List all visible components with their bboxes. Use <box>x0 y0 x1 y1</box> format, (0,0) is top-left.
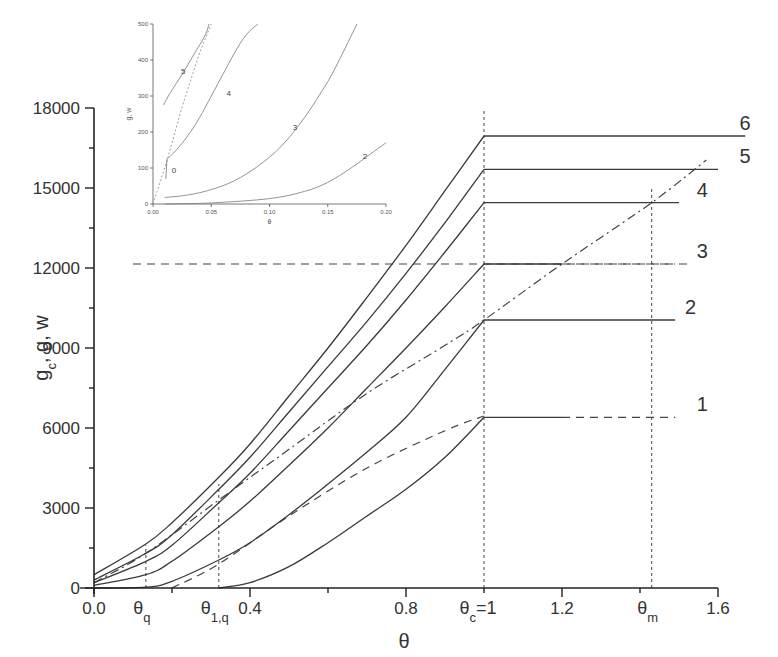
series-2-curve <box>94 320 484 588</box>
inset-x-title: θ <box>268 218 272 225</box>
x-tick-label: 1.6 <box>706 599 730 618</box>
inset-dashed-line <box>153 24 211 204</box>
inset-x-tick-label: 0.15 <box>322 209 334 215</box>
series-2-label: 2 <box>685 296 696 318</box>
y-title-g: g <box>30 370 52 381</box>
series-4-label: 4 <box>697 179 708 201</box>
y-tick-label: 6000 <box>42 419 80 438</box>
inset-y-tick-label: 400 <box>138 57 149 63</box>
y-tick-label: 3000 <box>42 499 80 518</box>
inset-plot: 01002003004005000.000.050.100.150.20θg, … <box>125 21 392 225</box>
inset-x-tick-label: 0.20 <box>380 209 392 215</box>
inset-series-2-label: 2 <box>363 152 368 161</box>
series-6-curve <box>94 136 484 575</box>
main-plot: 03000600090001200015000180000.00.40.81.2… <box>30 99 751 652</box>
x-axis-title: θ <box>398 630 409 652</box>
y-tick-label: 15000 <box>33 179 80 198</box>
x-tick-label: 1.2 <box>550 599 574 618</box>
inset-series-4-label: 4 <box>226 89 231 98</box>
inset-annotation: 0 <box>172 166 177 175</box>
inset-series-3-label: 3 <box>293 123 298 132</box>
series-3-label: 3 <box>697 240 708 262</box>
inset-y-tick-label: 200 <box>138 129 149 135</box>
series-1-curve <box>219 417 484 588</box>
inset-x-tick-label: 0.10 <box>264 209 276 215</box>
series-5-label: 5 <box>740 145 751 167</box>
inset-y-tick-label: 300 <box>138 93 149 99</box>
y-tick-label: 18000 <box>33 99 80 118</box>
x-special-label: θq <box>133 598 150 625</box>
x-special-label: θc=1 <box>459 598 496 625</box>
inset-y-tick-label: 0 <box>145 201 149 207</box>
inset-series-3-curve <box>165 24 357 198</box>
x-tick-label: 0.8 <box>394 599 418 618</box>
reference-lines <box>94 160 706 588</box>
inset-series-5-label: 5 <box>181 67 186 76</box>
vertical-markers <box>146 108 652 588</box>
series-3-curve <box>94 264 484 585</box>
dash-dot-line <box>94 160 706 583</box>
chart: 03000600090001200015000180000.00.40.81.2… <box>0 0 778 657</box>
inset-y-tick-label: 500 <box>138 21 149 27</box>
y-tick-label: 0 <box>71 579 80 598</box>
series-4-curve <box>94 203 484 583</box>
y-tick-label: 12000 <box>33 259 80 278</box>
series-1-label: 1 <box>697 393 708 415</box>
series-5-curve <box>94 169 484 580</box>
inset-y-tick-label: 100 <box>138 165 149 171</box>
inset-x-tick-label: 0.05 <box>205 209 217 215</box>
inset-x-tick-label: 0.00 <box>147 209 159 215</box>
x-special-label: θ1,q <box>201 598 229 625</box>
x-tick-label: 0.0 <box>82 599 106 618</box>
x-special-label: θm <box>637 598 658 625</box>
main-axes: 03000600090001200015000180000.00.40.81.2… <box>33 99 730 625</box>
series-6-label: 6 <box>740 112 751 134</box>
inset-y-title: g, w <box>125 107 133 121</box>
y-title-rest: , g, w <box>30 315 52 363</box>
inset-series-5-curve <box>164 24 209 105</box>
curve-labels: 123456 <box>685 112 751 415</box>
x-tick-label: 0.4 <box>238 599 262 618</box>
inset-series-4-curve <box>167 24 258 159</box>
